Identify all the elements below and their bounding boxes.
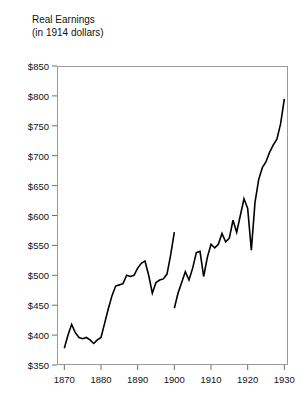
data-line-series-2 — [174, 99, 284, 308]
y-tick-label: $500 — [3, 270, 49, 281]
y-tick-label: $700 — [3, 150, 49, 161]
chart-figure: Real Earnings (in 1914 dollars) $350$400… — [0, 0, 302, 401]
x-tick-label: 1920 — [228, 374, 268, 385]
y-tick-label: $550 — [3, 240, 49, 251]
y-tick-label: $650 — [3, 180, 49, 191]
y-tick-label: $850 — [3, 61, 49, 72]
x-tick-label: 1930 — [264, 374, 302, 385]
y-tick-label: $750 — [3, 120, 49, 131]
data-line-series-1 — [64, 232, 174, 348]
y-tick-label: $800 — [3, 90, 49, 101]
y-axis-ticks — [52, 66, 57, 365]
x-tick-label: 1870 — [44, 374, 84, 385]
y-tick-label: $450 — [3, 300, 49, 311]
x-tick-label: 1900 — [154, 374, 194, 385]
x-axis-ticks — [64, 365, 284, 370]
data-series-group — [64, 99, 284, 348]
x-tick-label: 1880 — [81, 374, 121, 385]
x-tick-label: 1910 — [191, 374, 231, 385]
x-tick-label: 1890 — [118, 374, 158, 385]
y-tick-label: $600 — [3, 210, 49, 221]
y-tick-label: $350 — [3, 360, 49, 371]
y-tick-label: $400 — [3, 330, 49, 341]
